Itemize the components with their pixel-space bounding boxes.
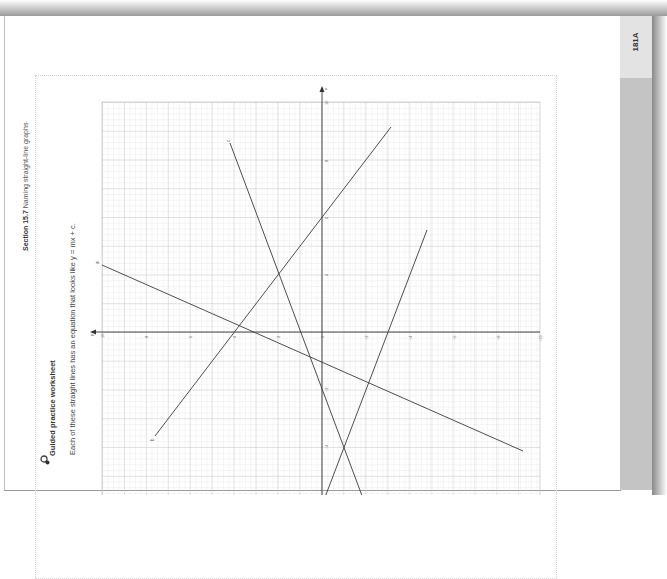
svg-text:10: 10: [100, 333, 105, 338]
svg-text:−10: −10: [538, 334, 543, 342]
y-axis-label: y: [89, 334, 94, 336]
svg-text:−2: −2: [364, 335, 369, 340]
svg-text:−4: −4: [408, 335, 413, 340]
svg-text:−6: −6: [452, 335, 457, 340]
line-label-a: a: [95, 261, 100, 264]
svg-text:−2: −2: [324, 387, 329, 392]
grid: [102, 102, 540, 495]
x-axis-label: x: [323, 88, 328, 90]
svg-text:−4: −4: [324, 444, 329, 449]
svg-text:−8: −8: [496, 335, 501, 340]
svg-text:10: 10: [324, 100, 329, 105]
